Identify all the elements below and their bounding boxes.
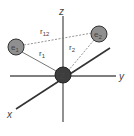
- r2-subscript: 2: [72, 47, 76, 53]
- r12-line: [24, 33, 92, 45]
- svg-text:r12: r12: [40, 27, 50, 37]
- atom-coordinate-diagram: z y x e1 e2 Z r12 r1 r2: [0, 0, 134, 136]
- y-axis-label: y: [118, 71, 125, 82]
- svg-text:r1: r1: [39, 49, 46, 59]
- r1-subscript: 1: [42, 53, 46, 59]
- nucleus: Z: [55, 67, 71, 83]
- nucleus-label: Z: [60, 71, 66, 81]
- z-axis-label: z: [58, 6, 64, 17]
- electron-e1: e1: [8, 39, 24, 55]
- r12-subscript: 12: [43, 31, 50, 37]
- x-axis-label: x: [6, 109, 13, 120]
- svg-text:r2: r2: [69, 43, 76, 53]
- electron-e2: e2: [91, 26, 107, 42]
